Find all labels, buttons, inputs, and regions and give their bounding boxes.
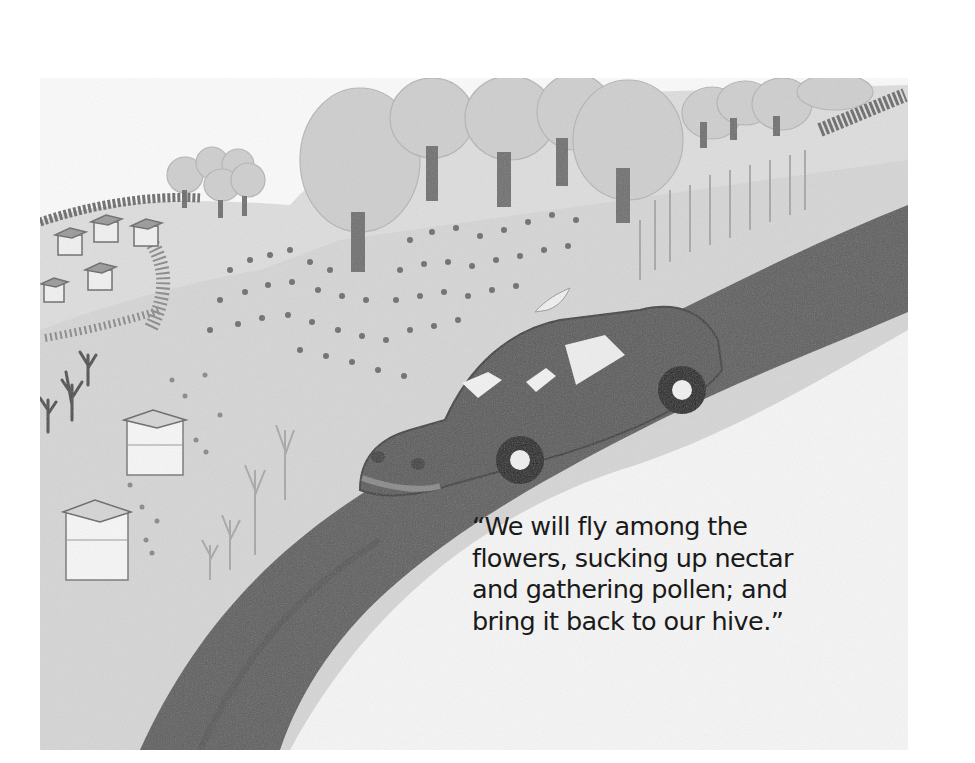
caption-line-1: “We will fly among the [472, 511, 832, 543]
illustration [0, 0, 975, 763]
beehive-near-1 [124, 410, 186, 475]
caption-line-3: and gathering pollen; and [472, 574, 832, 606]
caption: “We will fly among the flowers, sucking … [472, 511, 832, 637]
storybook-page: “We will fly among the flowers, sucking … [0, 0, 975, 763]
beehive-near-2 [63, 500, 131, 580]
caption-line-4: bring it back to our hive.” [472, 606, 832, 638]
caption-line-2: flowers, sucking up nectar [472, 543, 832, 575]
